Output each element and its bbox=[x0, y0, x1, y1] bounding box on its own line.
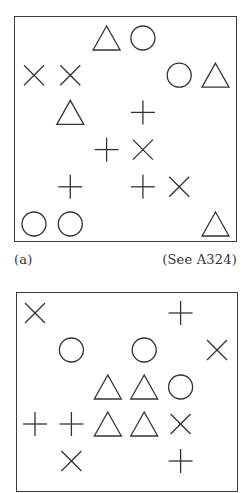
plus-icon bbox=[131, 175, 155, 199]
triangle-icon bbox=[94, 375, 121, 399]
circle-icon bbox=[167, 63, 191, 87]
plus-icon bbox=[59, 412, 83, 436]
cross-x-icon bbox=[24, 65, 44, 85]
figure-a-grid bbox=[14, 16, 237, 242]
plus-icon bbox=[95, 138, 119, 162]
plus-icon bbox=[169, 301, 193, 325]
circle-icon bbox=[131, 26, 155, 50]
cross-x-icon bbox=[133, 140, 153, 160]
triangle-icon bbox=[131, 375, 158, 399]
triangle-icon bbox=[57, 100, 84, 124]
circle-icon bbox=[58, 212, 82, 236]
circle-icon bbox=[169, 375, 193, 399]
cross-x-icon bbox=[171, 414, 191, 434]
circle-icon bbox=[132, 338, 156, 362]
plus-icon bbox=[169, 449, 193, 473]
figure-a-label: (a) bbox=[14, 252, 33, 267]
cross-x-icon bbox=[60, 65, 80, 85]
triangle-icon bbox=[94, 412, 121, 436]
circle-icon bbox=[59, 338, 83, 362]
plus-icon bbox=[23, 412, 47, 436]
triangle-icon bbox=[131, 412, 158, 436]
circle-icon bbox=[22, 212, 46, 236]
triangle-icon bbox=[202, 212, 229, 236]
triangle-icon bbox=[202, 63, 229, 87]
cross-x-icon bbox=[61, 451, 81, 471]
cross-x-icon bbox=[207, 340, 227, 360]
plus-icon bbox=[131, 100, 155, 124]
triangle-icon bbox=[93, 26, 120, 50]
plus-icon bbox=[58, 175, 82, 199]
figure-b-grid bbox=[16, 292, 238, 492]
figure-a-symbols bbox=[15, 17, 238, 243]
figure-b-symbols bbox=[17, 293, 239, 493]
cross-x-icon bbox=[169, 177, 189, 197]
figure-a-reference: (See A324) bbox=[162, 252, 237, 267]
cross-x-icon bbox=[25, 303, 45, 323]
